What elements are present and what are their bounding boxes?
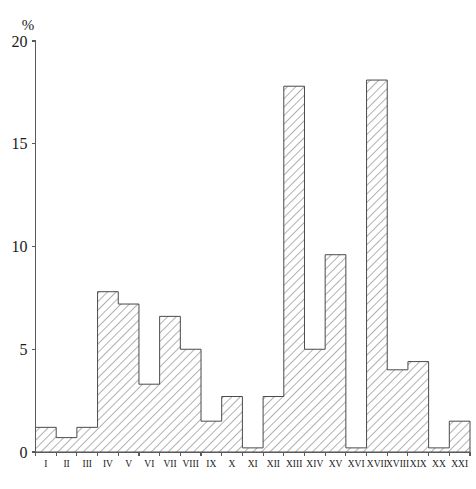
x-axis-tick-label: III — [82, 459, 92, 469]
y-tick-labels-group: 05101520 — [12, 33, 28, 461]
histogram-bar — [449, 421, 470, 452]
x-axis-tick-label: XIV — [306, 459, 323, 469]
histogram-chart: 05101520 IIIIIIIVVVIVIIVIIIIXXXIXIIXIIIX… — [0, 0, 476, 489]
x-axis-tick-label: IX — [206, 459, 216, 469]
x-axis-tick-label: IV — [103, 459, 113, 469]
x-axis-tick-label: VII — [163, 459, 176, 469]
histogram-bar — [36, 427, 57, 452]
histogram-bar — [387, 370, 408, 452]
y-axis-tick-label: 5 — [20, 341, 28, 358]
x-tick-labels-group: IIIIIIIVVVIVIIVIIIIXXXIXIIXIIIXIVXVXVIXV… — [44, 459, 468, 469]
histogram-bar — [284, 86, 305, 452]
x-axis-tick-label: XVI — [348, 459, 365, 469]
histogram-bar — [408, 362, 429, 452]
x-axis-tick-label: XX — [432, 459, 446, 469]
x-axis-tick-label: XVIII — [386, 459, 409, 469]
histogram-bar — [242, 448, 263, 452]
histogram-bar — [56, 438, 77, 452]
y-ticks-group — [32, 41, 36, 452]
x-axis-tick-label: XIII — [286, 459, 302, 469]
histogram-bar — [325, 255, 346, 452]
histogram-bar — [139, 384, 160, 452]
x-axis-tick-label: XII — [267, 459, 280, 469]
y-axis-tick-label: 20 — [12, 33, 28, 50]
x-axis-tick-label: XI — [248, 459, 258, 469]
bars-group — [36, 80, 471, 452]
histogram-bar — [367, 80, 388, 452]
histogram-bar — [160, 316, 181, 452]
x-axis-tick-label: XV — [329, 459, 343, 469]
x-axis-tick-label: XXI — [451, 459, 468, 469]
y-axis-tick-label: 0 — [20, 444, 28, 461]
histogram-bar — [77, 427, 98, 452]
histogram-bar — [263, 397, 284, 452]
histogram-bar — [429, 448, 450, 452]
histogram-bar — [222, 397, 243, 452]
x-axis-tick-label: X — [229, 459, 236, 469]
histogram-bar — [118, 304, 139, 452]
x-axis-tick-label: VI — [144, 459, 154, 469]
histogram-bar — [346, 448, 367, 452]
histogram-bar — [304, 349, 325, 452]
x-axis-tick-label: XIX — [410, 459, 427, 469]
x-axis-tick-label: VIII — [183, 459, 199, 469]
y-axis-tick-label: 10 — [12, 238, 28, 255]
histogram-figure: 05101520 IIIIIIIVVVIVIIVIIIIXXXIXIIXIIIX… — [0, 0, 476, 489]
x-axis-tick-label: I — [44, 459, 47, 469]
x-axis-tick-label: XVII — [367, 459, 387, 469]
x-axis-tick-label: V — [125, 459, 132, 469]
x-axis-tick-label: II — [63, 459, 69, 469]
histogram-bar — [180, 349, 201, 452]
y-axis-unit-label: % — [22, 17, 35, 33]
histogram-bar — [201, 421, 222, 452]
y-axis-tick-label: 15 — [12, 135, 28, 152]
histogram-bar — [98, 292, 119, 452]
